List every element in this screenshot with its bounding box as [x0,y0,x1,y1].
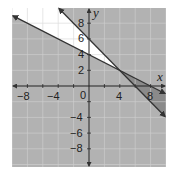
y-tick-label: 2 [78,64,84,76]
y-tick-label: −6 [70,127,83,139]
coordinate-plane: y x −8 −4 0 4 8 8 6 4 2 −4 −6 −8 [0,0,175,176]
x-tick-label: 4 [116,90,122,102]
x-tick-label: 8 [147,90,153,102]
y-tick-label: −8 [70,142,83,154]
y-tick-label: 6 [78,32,84,44]
y-tick-label: 8 [78,17,84,29]
y-tick-label: 4 [78,48,84,60]
x-tick-label: −8 [17,90,30,102]
y-axis-label: y [91,5,99,20]
y-tick-label: −4 [70,111,83,123]
x-tick-label: −4 [47,90,60,102]
origin-label: 0 [80,89,86,101]
x-axis-label: x [156,69,163,84]
